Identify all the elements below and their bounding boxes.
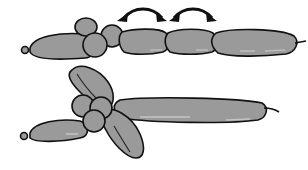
- curved-arrow-icon: [117, 9, 167, 22]
- step1-balloon: [22, 18, 307, 59]
- step2-balloon: [21, 66, 280, 158]
- knot-icon: [22, 47, 29, 54]
- curved-arrow-icon: [169, 9, 217, 22]
- balloon-diagram: [0, 0, 308, 170]
- twist-arrows: [117, 9, 217, 22]
